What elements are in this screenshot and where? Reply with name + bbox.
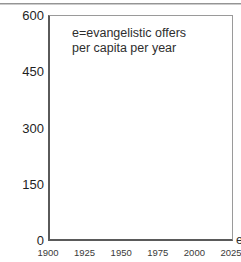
y-tick-label: 150: [0, 177, 44, 190]
x-tick-label: 2025: [220, 247, 241, 258]
x-tick-label: 1975: [147, 247, 168, 258]
plot-area: e=evangelistic offers per capita per yea…: [50, 16, 233, 241]
series-layer: [50, 16, 233, 241]
scan-border-rule: [0, 3, 241, 5]
x-tick-label: 1925: [74, 247, 95, 258]
y-tick-label: 600: [0, 9, 44, 22]
y-axis-tick-labels: 0150300450600: [0, 15, 44, 241]
y-tick-label: 300: [0, 121, 44, 134]
x-tick-label: 1900: [37, 247, 58, 258]
y-tick-label: 0: [0, 234, 44, 247]
y-tick-label: 450: [0, 65, 44, 78]
x-tick-label: 2000: [184, 247, 205, 258]
x-axis-tick-labels: 190019251950197520002025: [48, 247, 233, 261]
x-tick-label: 1950: [111, 247, 132, 258]
chart-figure: e=evangelistic offers per capita per yea…: [0, 0, 241, 262]
clipped-series-label: e: [236, 234, 241, 247]
